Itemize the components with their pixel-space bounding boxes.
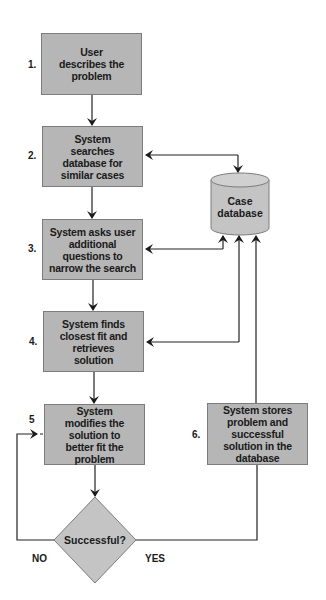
- step-6-box: System stores problem and successful sol…: [207, 403, 308, 465]
- step-5-number: 5: [29, 414, 35, 425]
- step-3-text: System asks user additional questions to…: [49, 226, 137, 274]
- database-label: Case database: [211, 195, 269, 219]
- step-5-text: System modifies the solution to better f…: [55, 405, 135, 465]
- step-5-box: System modifies the solution to better f…: [44, 404, 145, 465]
- step-3-number: 3.: [28, 243, 36, 254]
- step-6-text: System stores problem and successful sol…: [213, 404, 303, 464]
- step-4-box: System finds closest fit and retrieves s…: [43, 311, 144, 372]
- step-2-text: System searches database for similar cas…: [53, 133, 133, 181]
- step-4-text: System finds closest fit and retrieves s…: [60, 318, 128, 366]
- step-2-number: 2.: [28, 150, 36, 161]
- step-1-text: User describes the problem: [57, 46, 127, 82]
- flowchart: 1. User describes the problem 2. System …: [0, 0, 326, 600]
- step-4-number: 4.: [29, 336, 37, 347]
- yes-label: YES: [145, 553, 165, 564]
- decision-label: Successful?: [55, 534, 135, 546]
- step-1-number: 1.: [28, 59, 36, 70]
- step-6-number: 6.: [192, 429, 200, 440]
- step-1-box: User describes the problem: [41, 33, 142, 95]
- no-label: NO: [32, 553, 47, 564]
- step-2-box: System searches database for similar cas…: [42, 126, 143, 187]
- step-3-box: System asks user additional questions to…: [42, 219, 143, 280]
